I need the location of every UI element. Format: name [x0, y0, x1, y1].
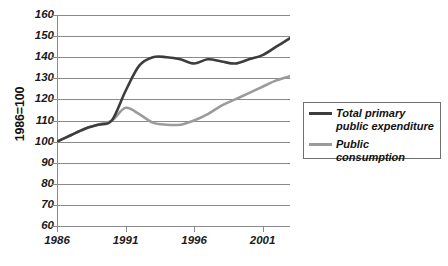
y-tick-label: 110 — [18, 115, 54, 126]
y-tick-label: 100 — [18, 136, 54, 147]
y-tick-label: 90 — [18, 157, 54, 168]
y-axis-tick-labels: 16015014013012011010090807060 — [18, 0, 54, 266]
y-tick-mark — [52, 205, 58, 206]
x-tick-mark — [263, 227, 264, 232]
y-tick-label: 60 — [18, 220, 54, 231]
y-tick-label: 130 — [18, 72, 54, 83]
legend-label: Public consumption — [336, 138, 439, 164]
legend-color-swatch — [309, 112, 332, 115]
y-tick-label: 140 — [18, 51, 54, 62]
series-line — [57, 76, 290, 141]
series-lines — [57, 15, 290, 227]
legend-label: Total primary public expenditure — [336, 107, 439, 133]
x-tick-mark — [126, 227, 127, 232]
y-tick-mark — [52, 15, 58, 16]
y-tick-label: 150 — [18, 30, 54, 41]
y-tick-label: 160 — [18, 9, 54, 20]
y-tick-mark — [52, 78, 58, 79]
line-chart: 1986=100 16015014013012011010090807060 T… — [0, 0, 448, 266]
legend-item[interactable]: Public consumption — [309, 138, 439, 164]
y-tick-mark — [52, 36, 58, 37]
x-tick-label: 1986 — [35, 234, 79, 247]
y-tick-mark — [52, 184, 58, 185]
y-tick-label: 70 — [18, 199, 54, 210]
x-tick-label: 1991 — [104, 234, 148, 247]
y-tick-mark — [52, 121, 58, 122]
y-tick-label: 120 — [18, 93, 54, 104]
y-tick-mark — [52, 99, 58, 100]
legend: Total primary public expenditurePublic c… — [303, 102, 441, 159]
legend-color-swatch — [309, 143, 332, 146]
x-tick-mark — [194, 227, 195, 232]
x-tick-label: 1996 — [172, 234, 216, 247]
y-tick-mark — [52, 142, 58, 143]
x-tick-mark — [57, 227, 58, 232]
y-tick-mark — [52, 163, 58, 164]
x-tick-label: 2001 — [241, 234, 285, 247]
y-tick-label: 80 — [18, 178, 54, 189]
y-tick-mark — [52, 57, 58, 58]
legend-item[interactable]: Total primary public expenditure — [309, 107, 439, 133]
